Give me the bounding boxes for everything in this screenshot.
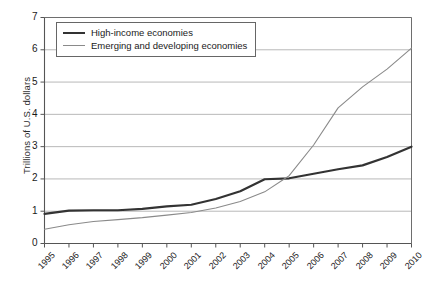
y-tick-label-2: 2 xyxy=(22,173,38,183)
series-line-0 xyxy=(45,147,412,214)
y-tick-label-6: 6 xyxy=(22,44,38,54)
line-chart: Trillions of U.S. dollars 01234567 19951… xyxy=(0,0,427,290)
series-line-1 xyxy=(45,48,412,229)
legend-label-emerging: Emerging and developing economies xyxy=(91,41,247,51)
chart-legend: High-income economies Emerging and devel… xyxy=(56,22,256,57)
legend-item: Emerging and developing economies xyxy=(63,39,247,52)
y-tick-label-4: 4 xyxy=(22,109,38,119)
legend-swatch-emerging xyxy=(63,45,85,46)
y-tick-label-0: 0 xyxy=(22,238,38,248)
legend-label-high-income: High-income economies xyxy=(91,28,193,38)
legend-swatch-high-income xyxy=(63,32,85,34)
y-tick-label-7: 7 xyxy=(22,12,38,22)
legend-item: High-income economies xyxy=(63,26,247,39)
y-tick-label-1: 1 xyxy=(22,206,38,216)
y-tick-label-5: 5 xyxy=(22,77,38,87)
y-tick-label-3: 3 xyxy=(22,141,38,151)
